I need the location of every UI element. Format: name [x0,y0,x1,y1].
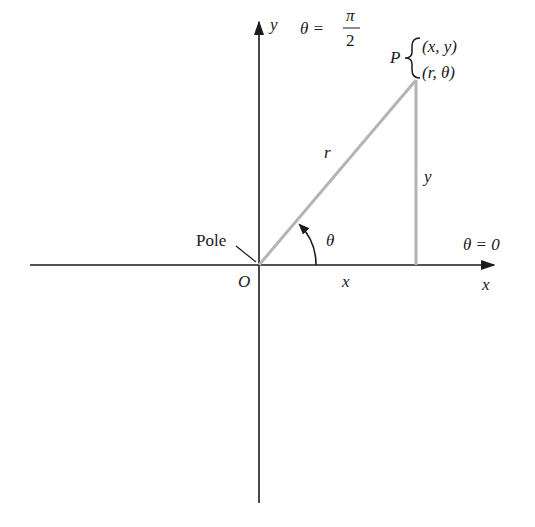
svg-text:(x, y): (x, y) [422,37,457,56]
radius-segment [259,80,416,265]
svg-text:θ =: θ = [300,19,324,38]
pole-leader [236,246,256,262]
vertical-segment-label: y [422,167,432,186]
brace-icon [405,38,420,78]
theta-zero-label: θ = 0 [463,235,500,254]
theta-pi-over-2-label: θ = π 2 [300,6,360,50]
polar-coordinate-diagram: y θ = π 2 P (x, y) (r, θ) r y θ Pole O x… [0,0,535,527]
point-p-label: P (x, y) (r, θ) [389,37,457,82]
horizontal-segment-label: x [341,272,350,291]
angle-arc [300,225,316,265]
angle-label: θ [326,231,334,250]
radius-label: r [324,143,331,162]
origin-label: O [238,272,250,291]
x-axis-label: x [481,275,490,294]
y-axis-label: y [268,15,278,34]
svg-text:(r, θ): (r, θ) [422,63,455,82]
svg-text:2: 2 [346,31,355,50]
pole-label: Pole [196,231,226,250]
svg-text:P: P [389,48,400,67]
svg-text:π: π [346,6,355,25]
